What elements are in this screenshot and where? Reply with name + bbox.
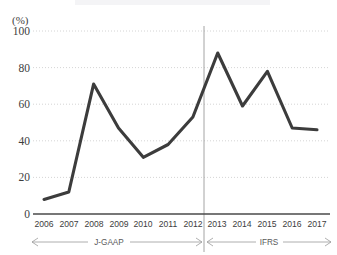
y-tick-label-80: 80 [19,62,31,74]
x-tick-label-2006: 2006 [34,219,53,229]
x-tick-label-2012: 2012 [183,219,202,229]
x-tick-label-2016: 2016 [282,219,301,229]
y-tick-label-40: 40 [19,135,31,147]
y-tick-label-100: 100 [13,25,31,37]
line-chart: (%) 100 80 60 40 20 0 2006 2007 200 [0,0,337,255]
x-tick-label-2014: 2014 [232,219,251,229]
x-tick-label-2010: 2010 [133,219,152,229]
x-tick-label-2009: 2009 [109,219,128,229]
y-axis-tick-labels: 100 80 60 40 20 0 [13,25,31,220]
x-tick-label-2008: 2008 [84,219,103,229]
period-annotation-ifrs: IFRS [207,238,331,247]
jgaap-label: J-GAAP [94,238,124,247]
y-tick-label-0: 0 [24,208,30,220]
x-tick-label-2011: 2011 [159,219,178,229]
ifrs-label: IFRS [260,238,279,247]
chart-container: (%) 100 80 60 40 20 0 2006 2007 200 [0,0,337,255]
y-tick-label-20: 20 [19,171,31,183]
x-axis-tick-labels: 2006 2007 2008 2009 2010 2011 2012 2013 … [34,219,326,229]
x-tick-label-2013: 2013 [207,219,226,229]
period-annotation-jgaap: J-GAAP [32,238,202,247]
top-artifact-band [75,0,270,5]
y-tick-label-60: 60 [19,98,31,110]
x-tick-label-2015: 2015 [257,219,276,229]
x-tick-label-2007: 2007 [59,219,78,229]
x-tick-label-2017: 2017 [307,219,326,229]
